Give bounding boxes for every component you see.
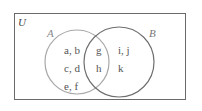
region-a-item: c, d [64,63,80,74]
region-intersection-item: h [96,63,102,74]
region-b-item: k [118,63,124,74]
region-a-item: e, f [64,81,78,92]
set-b-label: B [149,28,156,39]
region-a-item: a, b [64,45,80,56]
region-b-item: i, j [118,45,130,56]
set-a-label: A [47,28,54,39]
universe-label: U [18,17,26,28]
region-intersection-item: g [96,45,102,56]
